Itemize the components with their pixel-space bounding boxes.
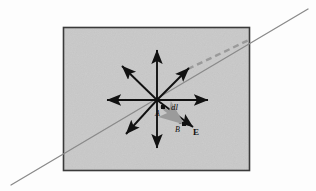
label-b: B: [175, 126, 180, 134]
label-e: E: [193, 128, 199, 137]
label-a: A: [155, 110, 160, 118]
figure-canvas: [0, 0, 316, 191]
point-b-marker: [182, 122, 186, 126]
point-a-marker: [161, 105, 165, 109]
physics-figure: A dl B E: [0, 0, 316, 191]
label-dl: dl: [171, 103, 178, 112]
